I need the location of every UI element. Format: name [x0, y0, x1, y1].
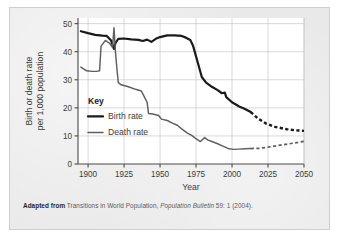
- x-tick-label: 2050: [295, 170, 314, 179]
- x-axis-title: Year: [182, 182, 200, 192]
- y-axis-title: Birth or death rate: [24, 56, 34, 125]
- x-tick-label: 2025: [259, 170, 278, 179]
- caption-rest-1: Transitions in World Population,: [65, 202, 160, 209]
- x-tick-label: 1950: [151, 170, 170, 179]
- y-tick-label: 20: [63, 104, 73, 113]
- caption-lead: Adapted from: [23, 202, 65, 209]
- y-axis-title: per 1,000 population: [35, 52, 45, 131]
- legend-death-rate-label: Death rate: [108, 127, 148, 137]
- x-tick-label: 2000: [223, 170, 242, 179]
- y-tick-label: 0: [67, 160, 72, 169]
- chart-svg: 010203040501900192519501975200020252050Y…: [10, 8, 331, 231]
- y-tick-label: 50: [63, 20, 73, 29]
- x-tick-label: 1900: [79, 170, 98, 179]
- x-tick-label: 1925: [115, 170, 134, 179]
- caption-rest-2: 59: 1 (2004).: [214, 202, 253, 209]
- legend-title: Key: [88, 96, 104, 106]
- caption-italic: Population Bulletin: [160, 202, 214, 209]
- figure-caption: Adapted from Transitions in World Popula…: [23, 202, 323, 209]
- y-tick-label: 30: [63, 76, 73, 85]
- x-tick-label: 1975: [187, 170, 206, 179]
- legend-birth-rate-label: Birth rate: [108, 111, 143, 121]
- y-tick-label: 10: [63, 132, 73, 141]
- figure-panel: 010203040501900192519501975200020252050Y…: [9, 7, 330, 230]
- y-tick-label: 40: [63, 48, 73, 57]
